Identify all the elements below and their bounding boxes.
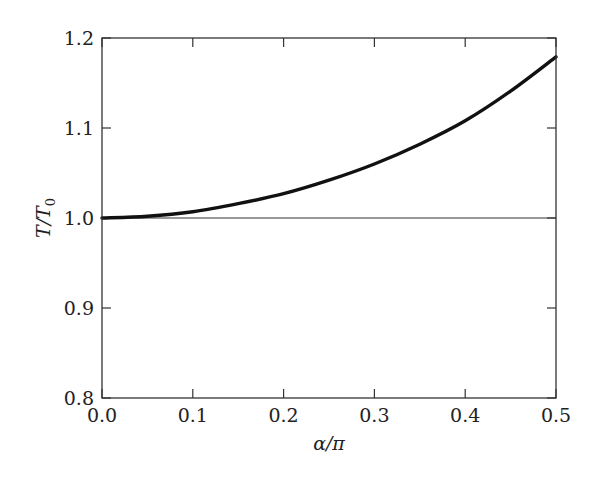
- x-tick-label: 0.2: [268, 404, 298, 426]
- x-axis-label: α/π: [313, 432, 345, 454]
- y-axis-label-main: T/T: [32, 205, 54, 238]
- x-tick-label: 0.5: [541, 404, 571, 426]
- data-series-curve: [102, 57, 556, 218]
- y-axis-label: T/T0: [32, 198, 58, 238]
- y-axis-label-subscript: 0: [43, 198, 58, 206]
- y-tick-label: 1.2: [64, 27, 94, 49]
- y-tick-label: 0.9: [64, 297, 94, 319]
- x-tick-label: 0.1: [178, 404, 208, 426]
- x-tick-label: 0.4: [450, 404, 480, 426]
- y-tick-label: 1.0: [64, 207, 94, 229]
- tick-labels: 0.00.10.20.30.40.50.80.91.01.11.2: [64, 27, 571, 426]
- y-tick-label: 1.1: [64, 117, 94, 139]
- line-chart: 0.00.10.20.30.40.50.80.91.01.11.2 α/π T/…: [0, 0, 600, 492]
- y-tick-label: 0.8: [64, 387, 94, 409]
- x-tick-label: 0.3: [359, 404, 389, 426]
